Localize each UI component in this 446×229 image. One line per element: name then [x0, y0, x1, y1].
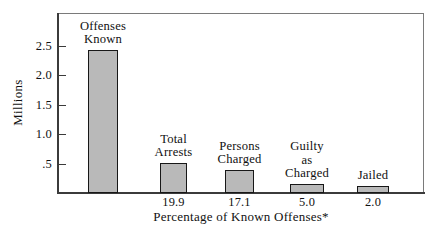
y-axis-tick-label-wrap: 2.5 — [0, 40, 52, 52]
y-axis-tick-mark — [59, 75, 66, 76]
y-axis-tick-label-wrap: 1.0 — [0, 128, 52, 140]
bar-chart-figure: 2.52.01.51.0.5 Millions Offenses KnownTo… — [0, 0, 446, 229]
y-axis-tick-label-wrap: 2.0 — [0, 69, 52, 81]
y-axis-tick-label: 1.0 — [22, 128, 52, 140]
bar — [88, 50, 118, 193]
y-axis-tick-mark — [59, 105, 66, 106]
bar — [290, 184, 324, 193]
bar-caption: Jailed — [328, 169, 418, 183]
y-axis-tick-label-wrap: 1.5 — [0, 99, 52, 111]
y-axis-tick-label: 1.5 — [22, 99, 52, 111]
x-axis-title: Percentage of Known Offenses* — [57, 210, 425, 224]
y-axis-tick-label: 2.5 — [22, 40, 52, 52]
y-axis-tick-label: .5 — [22, 158, 52, 170]
bar-percentage-label: 17.1 — [210, 196, 270, 209]
y-axis-tick-label-wrap: .5 — [0, 158, 52, 170]
bar-percentage-label: 2.0 — [343, 196, 403, 209]
y-axis-tick-mark — [59, 164, 66, 165]
y-axis-tick-label: 2.0 — [22, 69, 52, 81]
bar — [160, 163, 187, 193]
y-axis-tick-mark — [59, 134, 66, 135]
y-axis-title: Millions — [11, 73, 24, 133]
bar-percentage-label: 19.9 — [144, 196, 204, 209]
bar — [357, 186, 389, 193]
bar-percentage-label: 5.0 — [277, 196, 337, 209]
bar — [225, 170, 254, 193]
bar-caption: Offenses Known — [58, 20, 148, 47]
